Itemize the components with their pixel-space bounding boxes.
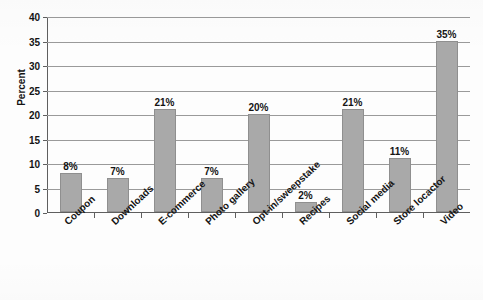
y-axis-tick-mark [43,66,47,67]
y-axis-tick-mark [43,91,47,92]
y-axis-tick-label: 0 [34,208,40,219]
bar-value-label: 7% [110,166,124,177]
y-axis-tick-label: 35 [29,36,40,47]
y-axis-tick-mark [43,164,47,165]
y-axis-title: Percent [16,48,27,128]
x-axis-tick-mark [423,213,424,218]
x-axis-tick-mark [282,213,283,218]
x-axis-tick-mark [329,213,330,218]
bar-value-label: 21% [154,97,174,108]
y-axis-tick-label: 20 [29,110,40,121]
bar-value-label: 21% [342,97,362,108]
gridline [47,17,470,18]
bar: 20% [248,114,270,212]
bar-value-label: 35% [436,29,456,40]
x-axis-tick-mark [94,213,95,218]
y-axis-tick-label: 25 [29,85,40,96]
bar-value-label: 8% [63,161,77,172]
y-axis-tick-label: 40 [29,12,40,23]
bar-chart-figure: Percent 0510152025303540 8%7%21%7%20%2%2… [0,0,483,300]
y-axis-tick-mark [43,115,47,116]
y-axis-tick-label: 30 [29,61,40,72]
bar-value-label: 20% [248,102,268,113]
bar: 21% [342,109,364,212]
y-axis-tick-mark [43,17,47,18]
gridline [47,66,470,67]
y-axis-tick-mark [43,42,47,43]
bar-value-label: 11% [390,146,409,157]
gridline [47,42,470,43]
x-axis-tick-mark [141,213,142,218]
gridline [47,91,470,92]
y-axis-tick-label: 10 [29,159,40,170]
y-axis-tick-label: 15 [29,134,40,145]
y-axis-tick-mark [43,140,47,141]
y-axis-tick-mark [43,213,47,214]
bar-value-label: 7% [204,166,218,177]
x-axis-tick-mark [235,213,236,218]
bar-value-label: 2% [298,190,312,201]
x-axis-tick-mark [188,213,189,218]
y-axis-tick-label: 5 [34,183,40,194]
x-axis-tick-mark [376,213,377,218]
plot-area: 0510152025303540 8%7%21%7%20%2%21%11%35% [47,17,470,213]
bar: 21% [154,109,176,212]
y-axis-tick-mark [43,189,47,190]
